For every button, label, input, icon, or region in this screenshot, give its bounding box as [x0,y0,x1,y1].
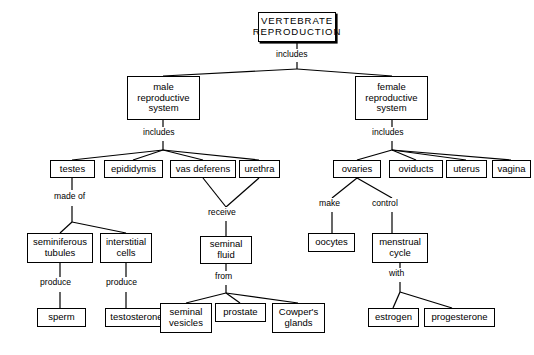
node-epididymis[interactable]: epididymis [104,160,163,178]
node-ovaries[interactable]: ovaries [333,160,381,178]
node-vas-deferens[interactable]: vas deferens [170,160,236,178]
node-seminal-fluid[interactable]: seminal fluid [200,236,252,264]
node-prostate[interactable]: prostate [215,303,266,322]
edge-root-to-female [297,69,392,76]
node-urethra[interactable]: urethra [239,160,280,178]
node-female-label: female reproductive system [365,82,417,114]
node-oocytes[interactable]: oocytes [308,233,355,252]
edge-vas-to-receive [203,178,226,207]
node-sperm[interactable]: sperm [37,308,86,327]
node-menstrual-cycle-label: menstrual cycle [379,237,421,258]
node-prostate-label: prostate [223,307,257,318]
linking-word-seminiferous-produce: produce [39,277,72,287]
node-epididymis-label: epididymis [111,164,156,175]
node-oviducts[interactable]: oviducts [389,160,443,178]
linking-word-with: with [388,268,405,278]
node-uterus[interactable]: uterus [446,160,487,178]
edge-to-progesterone [400,292,452,308]
node-seminiferous-tubules[interactable]: seminiferous tubules [27,233,93,263]
edge-root-to-male [163,69,297,76]
node-seminiferous-tubules-label: seminiferous tubules [33,237,87,258]
linking-word-receive: receive [207,207,237,217]
node-interstitial-cells[interactable]: interstitial cells [100,233,152,263]
linking-word-make: make [318,198,341,208]
linking-word-testes-made-of: made of [53,191,86,201]
linking-word-interstitial-produce: produce [105,277,138,287]
node-cowpers-glands[interactable]: Cowper's glands [272,303,325,333]
node-testes-label: testes [60,164,85,175]
node-root[interactable]: VERTEBRATE REPRODUCTION [258,12,336,42]
edge-testes-to-seminiferous [60,222,72,233]
node-urethra-label: urethra [244,164,274,175]
node-root-label: VERTEBRATE REPRODUCTION [253,16,342,37]
linking-word-control: control [371,198,399,208]
node-uterus-label: uterus [453,164,479,175]
node-vagina-label: vagina [498,164,526,175]
node-vagina[interactable]: vagina [492,160,531,178]
concept-map-canvas: VERTEBRATE REPRODUCTION male reproductiv… [0,0,534,355]
node-testosterone-label: testosterone [110,312,162,323]
node-testes[interactable]: testes [50,160,95,178]
node-interstitial-cells-label: interstitial cells [106,237,146,258]
edge-urethra-to-receive [226,178,259,207]
edge-male-to-urethra [163,150,259,160]
edge-to-seminal-vesicles [186,293,226,303]
node-female-reproductive-system[interactable]: female reproductive system [355,76,428,120]
node-male-reproductive-system[interactable]: male reproductive system [127,76,200,120]
node-progesterone-label: progesterone [432,312,488,323]
edge-to-estrogen [393,292,400,308]
node-oviducts-label: oviducts [399,164,434,175]
linking-word-female-includes: includes [371,127,405,137]
node-cowpers-glands-label: Cowper's glands [279,307,318,328]
linking-word-from: from [214,271,233,281]
edge-testes-to-interstitial [72,222,126,233]
node-menstrual-cycle[interactable]: menstrual cycle [372,233,428,263]
node-estrogen[interactable]: estrogen [368,308,419,327]
node-male-label: male reproductive system [137,82,189,114]
node-vas-deferens-label: vas deferens [176,164,230,175]
node-progesterone[interactable]: progesterone [424,308,495,327]
node-seminal-vesicles[interactable]: seminal vesicles [160,303,212,333]
edge-female-to-ovaries [357,150,392,160]
node-ovaries-label: ovaries [342,164,373,175]
linking-word-male-includes: includes [142,127,176,137]
node-sperm-label: sperm [48,312,74,323]
edge-ovaries-to-make [332,178,357,198]
node-seminal-vesicles-label: seminal vesicles [169,307,203,328]
edge-ovaries-to-control [357,178,392,198]
node-testosterone[interactable]: testosterone [105,308,168,327]
linking-word-root-includes: includes [275,49,309,59]
edge-to-cowpers [226,293,298,303]
node-estrogen-label: estrogen [375,312,412,323]
node-oocytes-label: oocytes [315,237,348,248]
node-seminal-fluid-label: seminal fluid [210,239,243,260]
